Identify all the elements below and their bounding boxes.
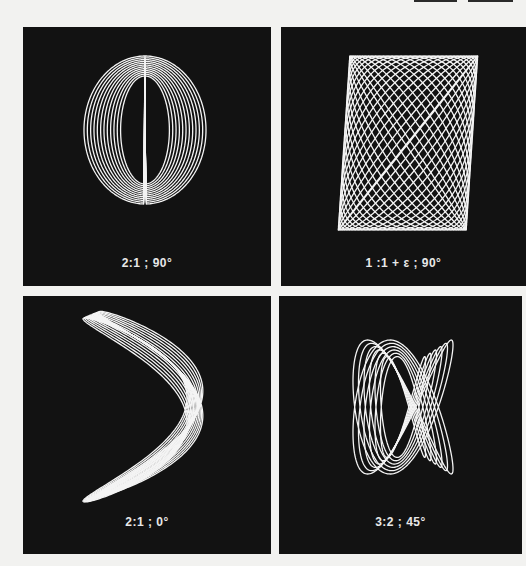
- top-bar-2: [468, 0, 513, 2]
- panel-caption: 2:1 ; 0°: [23, 515, 271, 529]
- panel-2to1-90deg: 2:1 ; 90°: [23, 27, 271, 286]
- trace-curve: [370, 350, 437, 464]
- trace-curve: [375, 353, 431, 460]
- lissajous-figure-ellipses: [281, 27, 526, 286]
- panel-caption: 3:2 ; 45°: [279, 515, 522, 529]
- lissajous-figure-bowtie: [23, 27, 271, 286]
- panel-3to2-45deg: 3:2 ; 45°: [279, 296, 522, 554]
- top-bar-1: [414, 0, 457, 2]
- panel-2to1-0deg: 2:1 ; 0°: [23, 296, 271, 554]
- panel-caption: 1 :1 + ε ; 90°: [281, 256, 526, 270]
- panel-caption: 2:1 ; 90°: [23, 256, 271, 270]
- panel-1to1-epsilon-90deg: 1 :1 + ε ; 90°: [281, 27, 526, 286]
- trace-curve: [121, 76, 170, 184]
- trace-curve: [381, 357, 426, 458]
